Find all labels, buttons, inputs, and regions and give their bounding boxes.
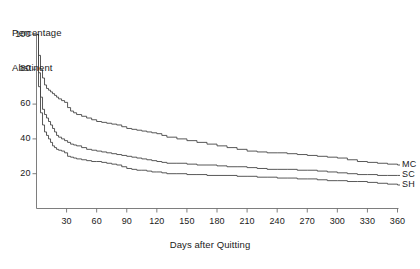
series-line-sh <box>37 35 398 186</box>
series-label-sc: SC <box>402 169 415 179</box>
y-tick-label: 60 <box>5 98 31 108</box>
x-axis-title: Days after Quitting <box>0 239 420 250</box>
series-label-mc: MC <box>402 159 416 169</box>
x-tick-label: 300 <box>322 216 352 226</box>
y-tick-label: 40 <box>5 133 31 143</box>
series-line-mc <box>37 35 398 166</box>
x-tick-marks <box>67 209 398 213</box>
y-tick-label: 100 <box>5 29 31 39</box>
series-curves <box>37 35 398 186</box>
x-tick-label: 90 <box>112 216 142 226</box>
y-axis-title: Percentage Abstinent <box>12 4 62 96</box>
plot-canvas <box>0 0 420 269</box>
y-tick-label: 80 <box>5 63 31 73</box>
x-tick-label: 330 <box>352 216 382 226</box>
x-tick-label: 210 <box>232 216 262 226</box>
x-tick-label: 180 <box>202 216 232 226</box>
series-leader-lines <box>398 165 401 185</box>
axes-group <box>37 35 399 209</box>
series-label-sh: SH <box>402 179 415 189</box>
x-tick-label: 30 <box>52 216 82 226</box>
x-tick-label: 60 <box>82 216 112 226</box>
chart-figure: Percentage Abstinent 20406080100 3060901… <box>0 0 420 269</box>
series-line-sc <box>37 35 398 176</box>
x-tick-label: 150 <box>172 216 202 226</box>
x-tick-label: 270 <box>292 216 322 226</box>
x-tick-label: 240 <box>262 216 292 226</box>
x-tick-label: 360 <box>383 216 413 226</box>
y-tick-label: 20 <box>5 168 31 178</box>
x-tick-label: 120 <box>142 216 172 226</box>
